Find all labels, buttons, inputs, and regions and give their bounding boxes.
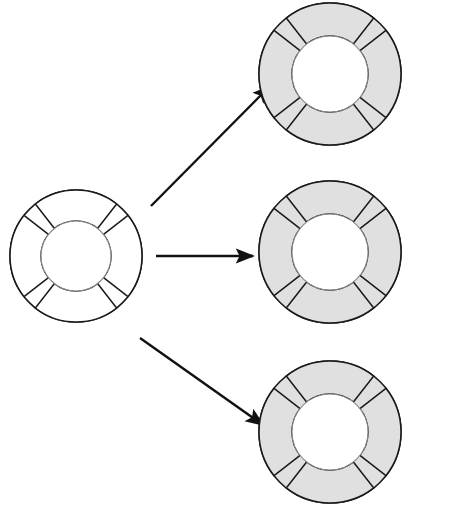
object-c	[257, 359, 403, 505]
object-a-ring	[257, 1, 403, 147]
arrow-to-object-a	[151, 86, 270, 206]
core-circle	[292, 214, 368, 290]
object-c-ring	[257, 359, 403, 505]
object-b-ring	[257, 179, 403, 325]
class-node-ring	[8, 188, 144, 324]
arrow-to-object-c	[140, 338, 263, 425]
class-node	[8, 188, 144, 324]
object-a	[257, 1, 403, 147]
core-circle	[41, 221, 111, 291]
core-circle	[292, 36, 368, 112]
core-circle	[292, 394, 368, 470]
diagram-canvas	[0, 0, 465, 512]
object-b	[257, 179, 403, 325]
